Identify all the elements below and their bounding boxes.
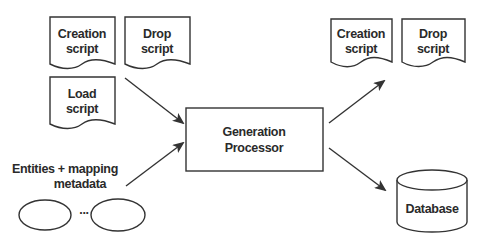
processor-line1: Generation — [223, 125, 286, 139]
generation-processor-box: Generation Processor — [186, 108, 323, 171]
input-load-script-line2: script — [66, 102, 99, 116]
input-drop-script-doc: Drop script — [125, 17, 190, 69]
entities-label-line1: Entities + mapping — [12, 162, 118, 176]
input-load-script-line1: Load — [68, 87, 97, 101]
output-creation-script-doc: Creation script — [331, 19, 392, 67]
input-load-script-doc: Load script — [50, 77, 115, 129]
database-cylinder: Database — [397, 170, 467, 232]
processor-line2: Processor — [225, 141, 284, 155]
input-creation-script-doc: Creation script — [50, 17, 115, 69]
arrow-processor-to-scripts — [329, 81, 384, 123]
output-drop-script-line1: Drop — [419, 27, 448, 41]
arrow-load-to-processor — [125, 78, 183, 123]
arrow-processor-to-database — [329, 148, 385, 190]
output-drop-script-doc: Drop script — [402, 19, 465, 67]
input-drop-script-line1: Drop — [143, 27, 172, 41]
output-drop-script-line2: script — [417, 42, 450, 56]
output-creation-script-line1: Creation — [337, 27, 385, 41]
entity-ellipse-1 — [19, 200, 71, 230]
generation-diagram: Creation script Drop script Load script … — [0, 0, 488, 242]
entities-label-line2: metadata — [54, 177, 108, 191]
input-creation-script-line1: Creation — [58, 27, 106, 41]
output-creation-script-line2: script — [345, 42, 378, 56]
input-drop-script-line2: script — [141, 42, 174, 56]
arrow-entities-to-processor — [126, 143, 183, 186]
input-creation-script-line2: script — [66, 42, 99, 56]
entity-ellipse-2 — [91, 199, 145, 231]
database-label: Database — [405, 202, 459, 216]
entities-ellipsis: ... — [79, 203, 89, 217]
